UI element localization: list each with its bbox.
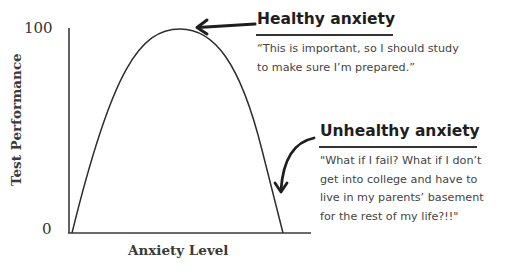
healthy-heading: Healthy anxiety: [257, 10, 395, 28]
y-tick-min: 0: [42, 220, 52, 238]
y-tick-max: 100: [24, 19, 53, 37]
unhealthy-underline: [319, 146, 477, 148]
unhealthy-quote-line-2: get into college and have to: [320, 171, 477, 190]
healthy-underline: [256, 34, 393, 36]
performance-curve: [72, 29, 283, 233]
healthy-quote-line-2: to make sure I’m prepared.”: [257, 59, 415, 78]
healthy-quote-line-1: “This is important, so I should study: [257, 40, 459, 59]
curved-arrow-icon: [275, 138, 314, 192]
arrow-icon: [197, 20, 255, 34]
unhealthy-quote-line-3: live in my parents’ basement: [320, 189, 484, 208]
unhealthy-quote-line-1: "What if I fail? What if I don’t: [320, 152, 481, 171]
unhealthy-quote-line-4: for the rest of my life?!!": [320, 208, 458, 227]
x-axis-title: Anxiety Level: [128, 242, 228, 258]
anxiety-performance-diagram: 100 0 Test Performance Anxiety Level Hea…: [0, 0, 508, 276]
y-axis-title: Test Performance: [8, 53, 24, 186]
unhealthy-heading: Unhealthy anxiety: [320, 122, 480, 140]
